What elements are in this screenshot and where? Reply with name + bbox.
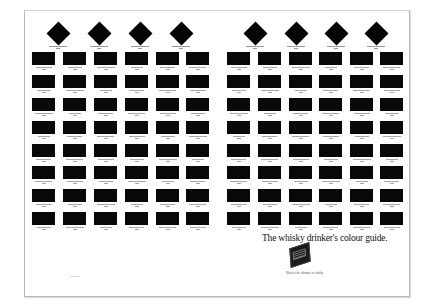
colour-swatch — [350, 52, 373, 65]
colour-swatch — [350, 75, 373, 88]
swatch-label — [156, 159, 179, 162]
colour-swatch — [94, 121, 117, 134]
colour-swatch — [380, 189, 403, 202]
swatch-label — [227, 181, 250, 184]
swatch-label — [32, 204, 55, 207]
swatch-label — [319, 227, 342, 230]
swatch-label — [319, 136, 342, 139]
swatch-label — [125, 181, 148, 184]
diamond-label — [240, 46, 270, 49]
swatch-label — [32, 181, 55, 184]
colour-swatch — [227, 166, 250, 179]
swatch-label — [63, 204, 86, 207]
swatch-label — [258, 67, 281, 70]
colour-swatch — [63, 166, 86, 179]
colour-swatch — [63, 144, 86, 157]
colour-swatch — [258, 75, 281, 88]
colour-swatch — [156, 52, 179, 65]
swatch-label — [380, 90, 403, 93]
colour-swatch — [186, 189, 209, 202]
colour-swatch — [125, 75, 148, 88]
colour-swatch — [94, 75, 117, 88]
swatch-label — [350, 113, 373, 116]
swatch-label — [350, 227, 373, 230]
swatch-label — [258, 181, 281, 184]
colour-swatch — [186, 98, 209, 111]
swatch-label — [319, 90, 342, 93]
swatch-label — [380, 136, 403, 139]
colour-swatch — [125, 189, 148, 202]
swatch-label — [63, 227, 86, 230]
colour-swatch — [319, 75, 342, 88]
colour-swatch — [32, 75, 55, 88]
swatch-label — [350, 204, 373, 207]
colour-swatch — [289, 121, 312, 134]
swatch-label — [319, 113, 342, 116]
colour-swatch — [319, 166, 342, 179]
swatch-label — [94, 67, 117, 70]
swatch-label — [63, 90, 86, 93]
swatch-label — [186, 113, 209, 116]
swatch-label — [289, 67, 312, 70]
colour-swatch — [186, 212, 209, 225]
swatch-label — [227, 67, 250, 70]
swatch-label — [32, 113, 55, 116]
swatch-label — [258, 204, 281, 207]
caption: Black is the ultimate in whisky. — [286, 271, 326, 275]
colour-swatch — [258, 166, 281, 179]
colour-swatch — [63, 75, 86, 88]
swatch-label — [258, 90, 281, 93]
swatch-label — [156, 181, 179, 184]
colour-swatch — [156, 98, 179, 111]
swatch-label — [63, 136, 86, 139]
colour-swatch — [289, 212, 312, 225]
headline: The whisky drinker's colour guide. — [262, 233, 374, 243]
colour-swatch — [125, 52, 148, 65]
swatch-label — [227, 113, 250, 116]
colour-swatch — [319, 212, 342, 225]
colour-swatch — [380, 212, 403, 225]
colour-swatch — [380, 121, 403, 134]
colour-swatch — [32, 52, 55, 65]
colour-swatch — [289, 144, 312, 157]
colour-swatch — [319, 121, 342, 134]
swatch-label — [94, 136, 117, 139]
swatch-label — [94, 159, 117, 162]
swatch-label — [289, 204, 312, 207]
swatch-label — [380, 113, 403, 116]
colour-swatch — [156, 189, 179, 202]
colour-swatch — [289, 189, 312, 202]
colour-swatch — [350, 144, 373, 157]
colour-swatch — [125, 212, 148, 225]
swatch-label — [32, 67, 55, 70]
colour-swatch — [350, 98, 373, 111]
swatch-label — [289, 136, 312, 139]
swatch-label — [125, 90, 148, 93]
colour-swatch — [227, 212, 250, 225]
colour-swatch — [289, 98, 312, 111]
colour-swatch — [186, 52, 209, 65]
swatch-label — [227, 227, 250, 230]
swatch-label — [350, 67, 373, 70]
colour-swatch — [227, 144, 250, 157]
colour-swatch — [350, 212, 373, 225]
swatch-label — [380, 159, 403, 162]
colour-swatch — [63, 189, 86, 202]
swatch-label — [186, 204, 209, 207]
swatch-label — [186, 159, 209, 162]
swatch-label — [125, 113, 148, 116]
swatch-label — [319, 159, 342, 162]
swatch-label — [63, 181, 86, 184]
swatch-label — [94, 181, 117, 184]
swatch-label — [227, 90, 250, 93]
swatch-label — [289, 159, 312, 162]
swatch-label — [289, 90, 312, 93]
diamond-label — [166, 46, 196, 49]
swatch-label — [94, 113, 117, 116]
swatch-label — [289, 113, 312, 116]
colour-swatch — [186, 75, 209, 88]
swatch-label — [156, 136, 179, 139]
colour-swatch — [156, 144, 179, 157]
swatch-label — [32, 159, 55, 162]
swatch-label — [258, 159, 281, 162]
